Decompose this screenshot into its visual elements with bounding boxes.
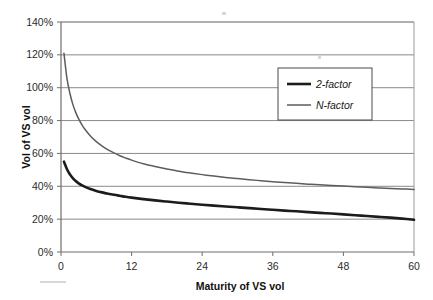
x-axis-title: Maturity of VS vol bbox=[196, 280, 285, 292]
y-tick-label: 20% bbox=[32, 213, 53, 225]
x-tick-label: 36 bbox=[267, 260, 279, 272]
chart-figure: 0%20%40%60%80%100%120%140% 01224364860 V… bbox=[0, 0, 433, 300]
y-tick-label: 40% bbox=[32, 180, 53, 192]
y-tick-label: 80% bbox=[32, 114, 53, 126]
y-tick-label: 100% bbox=[26, 81, 53, 93]
x-tick-label: 48 bbox=[338, 260, 350, 272]
plot-area-background bbox=[61, 22, 414, 252]
y-axis-title: Vol of VS vol bbox=[20, 105, 32, 168]
legend-label-2-factor: 2-factor bbox=[315, 78, 352, 90]
scan-artifact-speck bbox=[222, 12, 226, 15]
x-tick-label: 12 bbox=[126, 260, 138, 272]
y-tick-label: 140% bbox=[26, 16, 53, 28]
x-tick-label: 60 bbox=[408, 260, 420, 272]
scan-artifact-edge bbox=[40, 281, 66, 283]
line-chart-canvas: 0%20%40%60%80%100%120%140% 01224364860 V… bbox=[0, 0, 433, 300]
y-tick-label: 120% bbox=[26, 48, 53, 60]
chart-legend: 2-factor N-factor bbox=[278, 68, 372, 120]
scan-artifact-speck bbox=[318, 56, 321, 59]
x-tick-label: 24 bbox=[196, 260, 208, 272]
legend-label-n-factor: N-factor bbox=[316, 99, 354, 111]
legend-border bbox=[278, 68, 372, 120]
y-tick-label: 0% bbox=[38, 246, 53, 258]
x-tick-label: 0 bbox=[58, 260, 64, 272]
y-tick-label: 60% bbox=[32, 147, 53, 159]
